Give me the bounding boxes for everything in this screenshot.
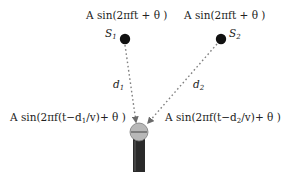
source-s1-signal: A sin(2πft + θ ) xyxy=(86,9,167,21)
source-s2-dot xyxy=(216,34,226,44)
two-source-interference-diagram: A sin(2πft + θ ) A sin(2πft + θ ) S1 S2 … xyxy=(0,0,284,172)
source-s2-label: S2 xyxy=(229,27,241,43)
path-s1-arrow xyxy=(125,45,136,122)
source-s1-label: S1 xyxy=(105,27,117,43)
microphone-icon xyxy=(130,123,148,172)
source-s1-dot xyxy=(120,34,130,44)
source-s2-signal: A sin(2πft + θ ) xyxy=(184,9,265,21)
distance-d2-label: d2 xyxy=(193,78,204,94)
diagram-graphics xyxy=(0,0,284,172)
received-signal-s2: A sin(2πf(t−d2/v)+ θ ) xyxy=(165,111,281,127)
received-signal-s1: A sin(2πf(t−d1/v)+ θ ) xyxy=(10,111,126,127)
distance-d1-label: d1 xyxy=(113,78,124,94)
